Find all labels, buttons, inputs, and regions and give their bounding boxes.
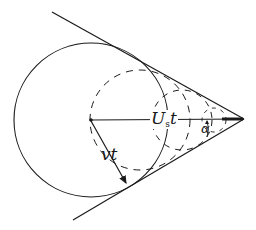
label-wave-radius: vt (100, 146, 118, 163)
label-source-distance: Ust (150, 110, 178, 129)
label-cone-angle: α (200, 122, 211, 135)
upper-tangent-line (52, 12, 244, 119)
mach-cone-diagram (0, 0, 256, 230)
